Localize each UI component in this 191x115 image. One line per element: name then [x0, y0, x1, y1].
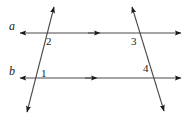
angle-label-2: 2 — [46, 36, 52, 47]
line-label-a: a — [9, 20, 15, 32]
angle-label-3: 3 — [131, 36, 137, 47]
right-transversal-line — [132, 7, 164, 111]
angle-label-1: 1 — [41, 68, 47, 79]
geometry-canvas — [0, 0, 191, 115]
line-label-b: b — [9, 65, 15, 77]
angle-label-4: 4 — [143, 63, 149, 74]
left-transversal-line — [27, 7, 54, 112]
geometry-diagram: a b 1 2 3 4 — [0, 0, 191, 115]
transversals-group — [27, 7, 164, 112]
